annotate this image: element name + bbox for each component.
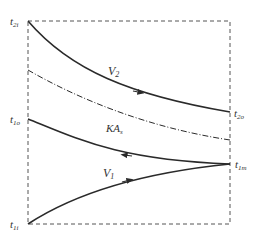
label-t2o: t2o <box>234 107 245 121</box>
label-t1i: t1i <box>10 218 19 232</box>
kas-curve <box>28 70 230 140</box>
v1-lower-curve <box>28 164 230 224</box>
label-kas: KAs <box>105 122 123 136</box>
v1-upper-arrow-icon <box>124 155 132 156</box>
label-v1: V1 <box>103 166 114 181</box>
bounding-box <box>28 21 230 224</box>
diagram-canvas: t2i t2o t1o t1i t1m V2 KAs V1 <box>0 0 259 243</box>
label-v2: V2 <box>108 64 119 79</box>
label-t1o: t1o <box>10 113 21 127</box>
label-t1m: t1m <box>235 158 247 172</box>
label-t2i: t2i <box>10 15 19 29</box>
v2-curve <box>28 21 230 112</box>
v1-upper-curve <box>28 119 230 164</box>
